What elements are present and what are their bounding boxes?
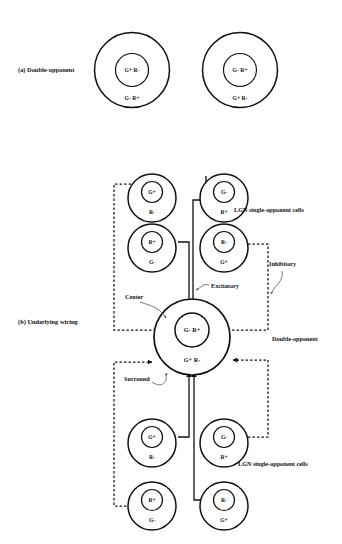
double-opponent-cell-left: G+ R- G- R+: [95, 33, 170, 108]
lgn-top-right-2: R- G+: [200, 224, 248, 272]
cell-surround-label: G+ R-: [233, 95, 248, 101]
annotation-excitatory: Excitatory: [211, 282, 240, 289]
annotation-lgn-top: LGN single-opponent cells: [234, 206, 304, 213]
cell-center-label: G+: [148, 189, 156, 195]
cell-surround-label: R-: [149, 454, 155, 460]
panel-b-caption: (b) Underlying wiring: [18, 318, 78, 326]
double-opponent-cell-right: G- R+ G+ R-: [203, 33, 278, 108]
cell-center-label: R-: [221, 239, 227, 245]
excitatory-wire-bottom-left-1: [178, 372, 189, 437]
figure-double-opponent-wiring: (a) Double-opponent G+ R- G- R+ G- R+ G+…: [0, 0, 342, 544]
panel-a: (a) Double-opponent G+ R- G- R+ G- R+ G+…: [18, 33, 278, 108]
lgn-top-left-2: R+ G-: [128, 224, 176, 272]
cell-center-label: G-: [221, 434, 227, 440]
leader-excitatory: [196, 285, 209, 290]
cell-center-label: R+: [148, 239, 155, 245]
figure-canvas: (a) Double-opponent G+ R- G- R+ G- R+ G+…: [0, 0, 342, 544]
annotation-double-opponent: Double-opponent: [272, 335, 319, 342]
lgn-bottom-left-1: G+ R-: [128, 419, 176, 467]
lgn-bottom-left-2: R+ G-: [128, 482, 176, 530]
cell-surround-label: G-: [149, 259, 155, 265]
lgn-top-left-1: G+ R-: [128, 174, 176, 222]
lgn-top-right-1: G- R+: [200, 174, 248, 222]
cell-center-label: R+: [148, 497, 155, 503]
annotation-lgn-bottom: LGN single-opponent cells: [238, 460, 308, 467]
cell-surround-label: R-: [149, 209, 155, 215]
leader-inhibitory: [271, 271, 282, 294]
cell-center-label: G+: [148, 434, 156, 440]
cell-surround-label: G+: [220, 259, 228, 265]
panel-b: (b) Underlying wiring G+: [18, 174, 319, 530]
cell-center-label: G-: [221, 189, 227, 195]
cell-center-label: G+ R-: [125, 67, 140, 73]
leader-surround: [152, 373, 166, 385]
panel-a-caption: (a) Double-opponent: [18, 66, 75, 74]
double-opponent-cell-center: G- R+ G+ R-: [154, 299, 230, 375]
cell-surround-label: G-: [149, 517, 155, 523]
cell-surround-label: G+ R-: [184, 356, 200, 363]
cell-center-label: G- R+: [184, 326, 201, 333]
annotation-inhibitory: Inhibitory: [269, 260, 297, 267]
cell-center-label: R-: [221, 497, 227, 503]
cell-surround-label: G- R+: [125, 95, 140, 101]
cell-center-label: G- R+: [233, 67, 248, 73]
annotation-center: Center: [125, 293, 143, 300]
cell-surround-label: G+: [220, 517, 228, 523]
annotation-surround: Surround: [124, 375, 150, 382]
lgn-bottom-right-2: R- G+: [200, 482, 248, 530]
cell-surround-label: R+: [220, 454, 227, 460]
cell-surround-label: R+: [220, 209, 227, 215]
